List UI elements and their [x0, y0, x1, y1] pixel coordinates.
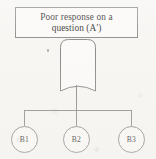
effect-node-b2-label: B2 [72, 135, 81, 144]
effect-node-b2[interactable]: B2 [63, 126, 90, 153]
effect-node-b3[interactable]: B3 [118, 126, 145, 153]
connector-bus-to-b3 [131, 110, 132, 126]
intermediate-node-shape [60, 39, 96, 92]
root-cause-box[interactable]: Poor response on a question (A') [15, 7, 138, 38]
intermediate-node[interactable] [60, 39, 96, 92]
connector-bus-to-b1 [24, 110, 25, 126]
scan-artifact-speck [47, 49, 49, 52]
root-cause-label-line-1: Poor response on a [40, 12, 112, 23]
diagram-canvas: Poor response on a question (A') B1 B2 B… [0, 0, 156, 159]
root-cause-label-line-2: question (A') [52, 23, 102, 34]
effect-node-b1-label: B1 [20, 135, 29, 144]
connector-bus-to-b2 [76, 110, 77, 126]
connector-horizontal-bus [24, 110, 132, 111]
effect-node-b1[interactable]: B1 [11, 126, 38, 153]
connector-node-to-bus [76, 85, 77, 111]
effect-node-b3-label: B3 [127, 135, 136, 144]
